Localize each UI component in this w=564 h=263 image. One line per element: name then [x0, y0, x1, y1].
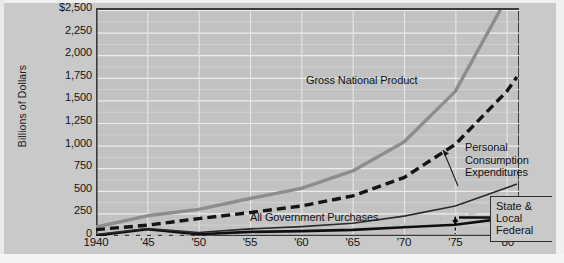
- annotation-all-government-purchases: All Government Purchases: [250, 211, 378, 224]
- y-tick-2000: 2,000: [44, 47, 92, 58]
- x-tick-1975: '75: [448, 236, 462, 248]
- annotation-pce-line1: Personal: [465, 141, 529, 154]
- y-axis-label: Billions of Dollars: [16, 51, 28, 161]
- x-tick-1960: '60: [294, 236, 308, 248]
- y-tick-1250: 1,250: [44, 115, 92, 126]
- legend-box: State & Local Federal: [490, 196, 552, 242]
- scan-edge-right: [556, 0, 564, 263]
- legend-state-local-line1: State &: [496, 200, 532, 212]
- y-tick-250: 250: [44, 205, 92, 216]
- x-tick-1955: '55: [243, 236, 257, 248]
- y-tick-1750: 1,750: [44, 70, 92, 81]
- x-tick-1940: 1940: [84, 236, 109, 248]
- plot-area: [96, 8, 519, 234]
- scan-edge-left: [0, 0, 4, 263]
- y-axis-tick-labels: $2,5002,2502,0001,7501,5001,2501,0007505…: [44, 4, 92, 234]
- figure-title-partial: [96, 0, 226, 2]
- annotation-gross-national-product: Gross National Product: [306, 74, 418, 87]
- legend-item-federal: Federal: [496, 224, 533, 236]
- y-tick-2250: 2,250: [44, 25, 92, 36]
- y-tick-1000: 1,000: [44, 138, 92, 149]
- scan-edge-bottom: [0, 254, 564, 263]
- annotation-pce-line2: Consumption: [465, 154, 529, 167]
- x-axis-tick-labels: 1940'45'50'55'60'65'70'75'80: [0, 236, 564, 254]
- annotation-pce-line3: Expenditures: [465, 166, 529, 179]
- y-tick-750: 750: [44, 160, 92, 171]
- annotation-personal-consumption-expenditures: Personal Consumption Expenditures: [465, 141, 529, 179]
- x-tick-1950: '50: [191, 236, 205, 248]
- x-tick-1970: '70: [397, 236, 411, 248]
- legend-item-state-local: State & Local: [496, 200, 532, 224]
- y-tick-500: 500: [44, 183, 92, 194]
- y-tick-2500: $2,500: [44, 2, 92, 13]
- chart-svg: [96, 10, 519, 236]
- x-tick-1965: '65: [345, 236, 359, 248]
- figure-container: Billions of Dollars $2,5002,2502,0001,75…: [0, 0, 564, 263]
- y-tick-1500: 1,500: [44, 92, 92, 103]
- x-tick-1945: '45: [140, 236, 154, 248]
- series-line-gross-national-product: [96, 10, 517, 227]
- legend-state-local-line2: Local: [496, 212, 532, 224]
- series-lines: [96, 10, 517, 236]
